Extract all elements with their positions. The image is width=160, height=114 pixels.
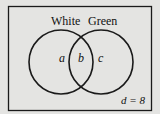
green-set-label: Green [88,15,117,27]
region-a-label: a [59,52,65,64]
outside-d-label: d = 8 [121,95,145,106]
region-c-label: c [98,52,103,64]
white-set-label: White [51,15,80,27]
region-b-label: b [78,52,84,64]
